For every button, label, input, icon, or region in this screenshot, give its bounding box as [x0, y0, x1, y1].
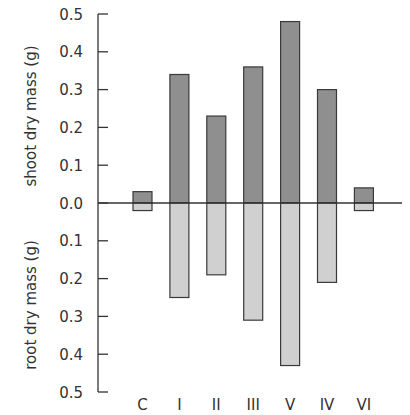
y-tick-label: 0.1: [59, 157, 83, 175]
x-category-label: V: [285, 396, 296, 414]
shoot-bar-V: [281, 22, 300, 203]
x-category-label: II: [212, 396, 221, 414]
root-bar-V: [281, 203, 300, 366]
root-bar-I: [170, 203, 189, 298]
shoot-bar-III: [244, 67, 263, 203]
shoot-bar-VI: [354, 188, 373, 203]
shoot-bar-I: [170, 74, 189, 203]
y-tick-label: 0.4: [59, 43, 83, 61]
x-category-label: VI: [357, 396, 372, 414]
x-axis-category-labels: CIIIIIIVIVVI: [137, 396, 371, 414]
y-axis-title-shoot: shoot dry mass (g): [22, 45, 40, 186]
root-bar-VI: [354, 203, 373, 211]
y-tick-label: 0.5: [59, 6, 83, 24]
y-tick-label: 0.2: [59, 270, 83, 288]
y-tick-label: 0.1: [59, 232, 83, 250]
y-axis-title-shoot-text: shoot dry mass (g): [22, 45, 40, 186]
x-category-label: I: [177, 396, 181, 414]
y-axis-title-root: root dry mass (g): [22, 240, 40, 370]
y-axis-title-root-text: root dry mass (g): [22, 240, 40, 370]
bars: [133, 22, 373, 366]
x-category-label: C: [137, 396, 147, 414]
shoot-bar-C: [133, 192, 152, 203]
shoot-bar-II: [207, 116, 226, 203]
shoot-bar-IV: [318, 90, 337, 203]
x-category-label: IV: [320, 396, 335, 414]
bar-chart: shoot dry mass (g) root dry mass (g) 0.5…: [0, 0, 410, 415]
y-tick-label: 0.2: [59, 119, 83, 137]
y-tick-label: 0.3: [59, 81, 83, 99]
y-tick-label: 0.3: [59, 308, 83, 326]
root-bar-III: [244, 203, 263, 320]
y-tick-label: 0.0: [59, 195, 83, 213]
root-bar-IV: [318, 203, 337, 282]
root-bar-II: [207, 203, 226, 275]
root-bar-C: [133, 203, 152, 211]
y-tick-label: 0.5: [59, 384, 83, 402]
y-tick-label: 0.4: [59, 346, 83, 364]
x-category-label: III: [247, 396, 260, 414]
